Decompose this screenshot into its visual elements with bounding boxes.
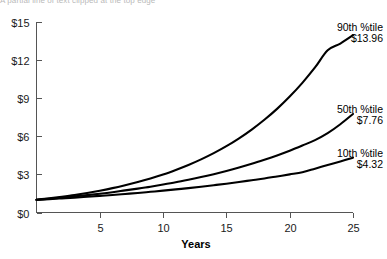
y-tick-label-3: $3 [17,169,29,181]
y-axis-ticks [37,23,42,214]
x-axis-ticks [101,213,354,218]
x-tick-label-10: 10 [157,222,169,234]
annotation-value-50th-tile: $7.76 [357,114,383,126]
y-tick-label-6: $6 [17,131,29,143]
series-annotations: 90th %tile$13.9650th %tile$7.7610th %til… [337,21,383,170]
y-tick-label-9: $9 [17,93,29,105]
chart-container: A partial line of text clipped at the to… [0,0,387,259]
annotation-value-90th-tile: $13.96 [351,32,383,44]
x-tick-label-5: 5 [97,222,103,234]
y-tick-label-0: $0 [17,208,29,220]
x-axis-tick-labels: 510152025 [97,222,359,234]
x-tick-label-25: 25 [347,222,359,234]
y-tick-label-12: $12 [11,55,29,67]
percentile-growth-line-chart: $0$3$6$9$12$15 510152025 90th %tile$13.9… [0,0,387,259]
x-tick-label-15: 15 [220,222,232,234]
y-tick-label-15: $15 [11,17,29,29]
annotation-value-10th-tile: $4.32 [357,158,383,170]
x-axis-title: Years [181,238,210,250]
series-curves [37,35,354,200]
curve-90th-tile [37,35,354,200]
x-tick-label-20: 20 [284,222,296,234]
y-axis-tick-labels: $0$3$6$9$12$15 [11,17,29,220]
